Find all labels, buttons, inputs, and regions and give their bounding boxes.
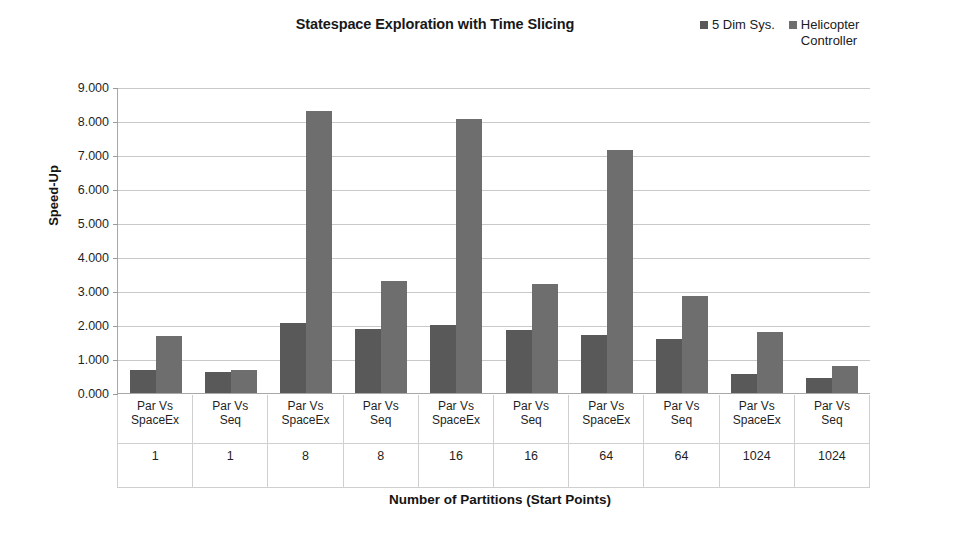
bar-group-bars [268, 88, 343, 393]
category-separator [344, 443, 418, 444]
bar[interactable] [130, 370, 156, 393]
y-axis-tick-label: 4.000 [49, 251, 109, 265]
category-label: Par Vs Seq [189, 399, 271, 427]
bar[interactable] [280, 323, 306, 393]
partition-count-label: 64 [569, 449, 643, 463]
category-cell: Par Vs SpaceEx1024 [720, 395, 795, 487]
y-axis-tick-label: 5.000 [49, 217, 109, 231]
category-separator [268, 443, 342, 444]
bar[interactable] [231, 370, 257, 393]
bar-group [494, 88, 569, 393]
category-label: Par Vs SpaceEx [415, 399, 497, 427]
category-cell: Par Vs SpaceEx16 [419, 395, 494, 487]
bar[interactable] [156, 336, 182, 393]
category-axis: Par Vs SpaceEx1Par Vs Seq1Par Vs SpaceEx… [117, 395, 870, 487]
bar[interactable] [806, 378, 832, 393]
legend-swatch-icon [700, 21, 708, 29]
bar[interactable] [532, 284, 558, 393]
partition-count-label: 1024 [720, 449, 794, 463]
bar-group [193, 88, 268, 393]
partition-count-label: 64 [644, 449, 718, 463]
bar[interactable] [430, 325, 456, 393]
bar[interactable] [757, 332, 783, 393]
partition-count-label: 1024 [795, 449, 869, 463]
bar-group [569, 88, 644, 393]
bar[interactable] [456, 119, 482, 393]
bar[interactable] [832, 366, 858, 393]
category-label: Par Vs SpaceEx [716, 399, 798, 427]
bar-group-bars [795, 88, 870, 393]
category-label: Par Vs Seq [340, 399, 422, 427]
legend-label-series-1: 5 Dim Sys. [712, 17, 775, 33]
bar-group-bars [344, 88, 419, 393]
bar-group-bars [644, 88, 719, 393]
category-cell: Par Vs SpaceEx1 [117, 395, 193, 487]
category-cell: Par Vs Seq64 [644, 395, 719, 487]
bar[interactable] [381, 281, 407, 393]
y-axis-tick-label: 0.000 [49, 387, 109, 401]
category-separator [569, 443, 643, 444]
y-axis-tick-label: 8.000 [49, 115, 109, 129]
category-label: Par Vs SpaceEx [114, 399, 196, 427]
bar[interactable] [205, 372, 231, 393]
category-axis-bottom-border [117, 487, 870, 488]
partition-count-label: 1 [118, 449, 192, 463]
bar-group-bars [419, 88, 494, 393]
category-cell: Par Vs Seq16 [494, 395, 569, 487]
legend-swatch-icon [789, 21, 797, 29]
category-label: Par Vs SpaceEx [565, 399, 647, 427]
bar[interactable] [656, 339, 682, 393]
bar[interactable] [506, 330, 532, 393]
bar-group-bars [193, 88, 268, 393]
category-cell: Par Vs SpaceEx8 [268, 395, 343, 487]
category-cell: Par Vs Seq1024 [795, 395, 870, 487]
chart-container: Statespace Exploration with Time Slicing… [0, 0, 970, 533]
bar-group-bars [569, 88, 644, 393]
bar-group-bars [720, 88, 795, 393]
y-axis-tick-label: 3.000 [49, 285, 109, 299]
partition-count-label: 16 [419, 449, 493, 463]
bar-group-bars [118, 88, 193, 393]
partition-count-label: 8 [344, 449, 418, 463]
legend-item-series-1[interactable]: 5 Dim Sys. [700, 17, 775, 33]
x-axis-title: Number of Partitions (Start Points) [120, 492, 880, 507]
bar[interactable] [581, 335, 607, 393]
bar-group [795, 88, 870, 393]
partition-count-label: 8 [268, 449, 342, 463]
chart-legend: 5 Dim Sys. Helicopter Controller [700, 17, 859, 49]
bar[interactable] [355, 329, 381, 393]
category-separator [118, 443, 192, 444]
bar[interactable] [306, 111, 332, 393]
category-label: Par Vs Seq [640, 399, 722, 427]
bar-group-bars [494, 88, 569, 393]
y-axis-tick-label: 9.000 [49, 81, 109, 95]
partition-count-label: 16 [494, 449, 568, 463]
category-separator [720, 443, 794, 444]
chart-title: Statespace Exploration with Time Slicing [205, 16, 665, 32]
category-label: Par Vs Seq [490, 399, 572, 427]
category-cell: Par Vs SpaceEx64 [569, 395, 644, 487]
bar[interactable] [607, 150, 633, 393]
legend-label-series-2: Helicopter Controller [801, 17, 860, 49]
category-label: Par Vs SpaceEx [264, 399, 346, 427]
bar-group [118, 88, 193, 393]
category-separator [494, 443, 568, 444]
bar-group [720, 88, 795, 393]
bar[interactable] [682, 296, 708, 393]
legend-item-series-2[interactable]: Helicopter Controller [789, 17, 860, 49]
bar-group [419, 88, 494, 393]
category-separator [795, 443, 869, 444]
bar[interactable] [731, 374, 757, 393]
bar-group [644, 88, 719, 393]
bar-group [344, 88, 419, 393]
category-cell: Par Vs Seq1 [193, 395, 268, 487]
plot-area: 0.0001.0002.0003.0004.0005.0006.0007.000… [117, 88, 870, 394]
y-axis-tick-label: 6.000 [49, 183, 109, 197]
category-separator [419, 443, 493, 444]
bar-groups [118, 88, 870, 393]
category-separator [644, 443, 718, 444]
category-label: Par Vs Seq [791, 399, 873, 427]
partition-count-label: 1 [193, 449, 267, 463]
y-axis-tick-label: 1.000 [49, 353, 109, 367]
y-axis-tick-label: 7.000 [49, 149, 109, 163]
